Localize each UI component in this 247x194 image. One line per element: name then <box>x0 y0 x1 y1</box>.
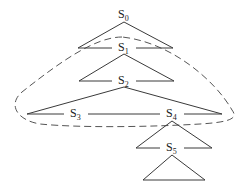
node-label-s0: S0 <box>118 7 129 23</box>
node-label-s2: S2 <box>118 73 129 89</box>
node-label-s4: S4 <box>166 106 177 122</box>
triangle-s2 <box>27 87 222 114</box>
triangle-s5 <box>143 155 205 180</box>
diagram-canvas: S0 S1 S2 S3 S4 S5 <box>0 0 247 194</box>
node-label-s1: S1 <box>118 40 129 56</box>
node-label-s5: S5 <box>166 140 177 156</box>
triangle-s0 <box>78 22 173 48</box>
triangle-s1 <box>79 54 174 81</box>
node-label-s3: S3 <box>70 106 81 122</box>
